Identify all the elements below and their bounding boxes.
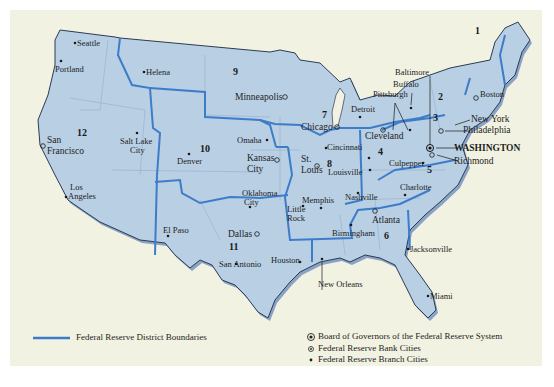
city-atlanta: Atlanta bbox=[372, 216, 400, 225]
district-10-label: 10 bbox=[200, 143, 210, 154]
city-houston: Houston bbox=[271, 256, 300, 265]
legend-symbols bbox=[308, 334, 315, 362]
branch-symbol-icon bbox=[310, 359, 313, 362]
city-washington: WASHINGTON bbox=[454, 144, 520, 153]
city-detroit: Detroit bbox=[351, 105, 375, 114]
district-9-label: 9 bbox=[233, 66, 238, 77]
city-el-paso: El Paso bbox=[163, 226, 189, 235]
city-st-louis-1: St. bbox=[301, 155, 311, 164]
city-omaha: Omaha bbox=[237, 136, 262, 145]
city-san-francisco-2: Francisco bbox=[47, 147, 84, 156]
city-salt-lake-2: City bbox=[130, 146, 145, 155]
city-nashville: Nashville bbox=[345, 193, 378, 202]
city-baltimore: Baltimore bbox=[395, 68, 429, 77]
district-11-label: 11 bbox=[229, 241, 238, 252]
city-miami: Miami bbox=[430, 292, 453, 301]
city-memphis: Memphis bbox=[302, 196, 334, 205]
legend-boundaries-label: Federal Reserve District Boundaries bbox=[76, 332, 207, 342]
city-kansas-city-2: City bbox=[247, 165, 263, 174]
city-cleveland: Cleveland bbox=[365, 132, 404, 141]
district-4-label: 4 bbox=[378, 146, 383, 157]
legend-bank-label: Federal Reserve Bank Cities bbox=[318, 343, 421, 353]
district-6-label: 6 bbox=[384, 230, 389, 241]
city-little-rock-2: Rock bbox=[287, 214, 305, 223]
city-buffalo: Buffalo bbox=[393, 80, 419, 89]
city-los-angeles-2: Angeles bbox=[68, 192, 96, 201]
city-new-york: New York bbox=[471, 115, 510, 124]
city-charlotte: Charlotte bbox=[400, 183, 432, 192]
federal-reserve-map: 1 2 3 4 5 6 7 8 9 10 11 12 Seattle Portl… bbox=[0, 0, 554, 387]
district-7-label: 7 bbox=[322, 109, 327, 120]
city-pittsburgh: Pittsburgh bbox=[373, 90, 408, 99]
city-portland: Portland bbox=[55, 65, 84, 74]
us-landmass bbox=[38, 22, 530, 318]
legend-branch-label: Federal Reserve Branch Cities bbox=[318, 354, 428, 364]
city-helena: Helena bbox=[146, 68, 170, 77]
city-birmingham: Birmingham bbox=[332, 229, 375, 238]
city-minneapolis: Minneapolis bbox=[235, 93, 283, 102]
city-boston: Boston bbox=[480, 90, 504, 99]
city-philadelphia: Philadelphia bbox=[463, 126, 511, 135]
city-oklahoma-city-2: City bbox=[244, 198, 259, 207]
legend-board-label: Board of Governors of the Federal Reserv… bbox=[318, 331, 502, 341]
city-st-louis-2: Louis bbox=[301, 166, 323, 175]
city-dallas: Dallas bbox=[228, 230, 252, 239]
city-san-antonio: San Antonio bbox=[219, 260, 261, 269]
city-richmond: Richmond bbox=[454, 157, 494, 166]
city-louisville: Louisville bbox=[328, 168, 362, 177]
city-kansas-city-1: Kansas bbox=[247, 154, 274, 163]
city-denver: Denver bbox=[177, 157, 202, 166]
city-culpepper: Culpepper bbox=[389, 159, 424, 168]
city-san-francisco-1: San bbox=[47, 136, 61, 145]
city-seattle: Seattle bbox=[77, 39, 100, 48]
district-5-label: 5 bbox=[427, 164, 432, 175]
city-new-orleans: New Orleans bbox=[318, 280, 363, 289]
district-1-label: 1 bbox=[475, 25, 480, 36]
district-12-label: 12 bbox=[77, 127, 87, 138]
city-chicago: Chicago bbox=[301, 123, 333, 132]
city-cincinnati: Cincinnati bbox=[327, 143, 362, 152]
city-jacksonville: Jacksonville bbox=[410, 245, 452, 254]
district-3-label: 3 bbox=[433, 112, 438, 123]
district-2-label: 2 bbox=[438, 91, 443, 102]
